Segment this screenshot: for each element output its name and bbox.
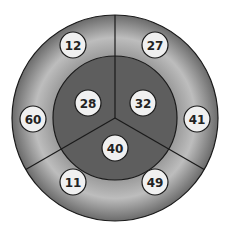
bubble-label: 11 [65,176,82,190]
bubble-label: 28 [80,97,97,111]
outer-bubble-12: 12 [60,32,86,58]
outer-bubble-11: 11 [60,169,86,195]
inner-bubble-40: 40 [102,135,128,161]
bubble-label: 49 [147,176,164,190]
bubble-label: 60 [25,113,42,127]
inner-bubble-32: 32 [130,90,156,116]
bubble-label: 12 [65,39,82,53]
segmented-circle-diagram: 28 32 40 12 27 60 41 11 49 [0,0,230,242]
bubble-label: 27 [147,39,164,53]
outer-bubble-49: 49 [142,169,168,195]
bubble-label: 32 [135,97,152,111]
outer-bubble-41: 41 [184,106,210,132]
outer-bubble-27: 27 [142,32,168,58]
bubble-label: 40 [107,142,124,156]
outer-bubble-60: 60 [20,106,46,132]
inner-bubble-28: 28 [75,90,101,116]
bubble-label: 41 [189,113,206,127]
